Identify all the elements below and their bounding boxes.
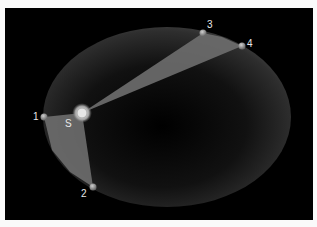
point-label-1: 1 <box>33 111 39 122</box>
planet-point-3 <box>200 30 207 37</box>
kepler-orbit-diagram: S 1 2 3 4 <box>0 0 317 227</box>
planet-point-2 <box>90 184 97 191</box>
point-label-3: 3 <box>207 19 213 30</box>
sun-label: S <box>65 118 72 129</box>
point-label-2: 2 <box>81 188 87 199</box>
point-label-4: 4 <box>247 38 253 49</box>
planet-point-1 <box>41 114 48 121</box>
sun-icon <box>77 108 87 118</box>
planet-point-4 <box>239 43 246 50</box>
